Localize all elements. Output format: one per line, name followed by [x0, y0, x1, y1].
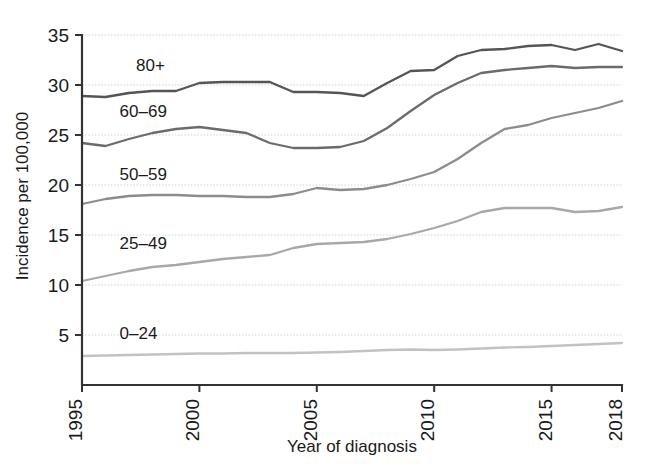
- series-group: [82, 44, 622, 356]
- y-tick-label-15: 15: [48, 225, 69, 246]
- y-axis-title: Incidence per 100,000: [13, 112, 32, 280]
- series-labels-group: 80+60–6950–5925–490–24: [120, 56, 167, 343]
- y-tick-label-30: 30: [48, 75, 69, 96]
- y-tick-label-35: 35: [48, 25, 69, 46]
- axis-lines: [82, 35, 622, 385]
- chart-container: 5101520253035199520002005201020152018 80…: [0, 0, 650, 476]
- y-tick-label-10: 10: [48, 275, 69, 296]
- incidence-line-chart: 5101520253035199520002005201020152018 80…: [0, 0, 650, 476]
- gridlines: [82, 35, 622, 335]
- y-tick-label-25: 25: [48, 125, 69, 146]
- series-label-0-24: 0–24: [120, 324, 158, 343]
- series-label-50-59: 50–59: [120, 165, 167, 184]
- y-tick-label-5: 5: [58, 325, 69, 346]
- series-line-0-24: [82, 343, 622, 356]
- x-tick-label-2005: 2005: [300, 399, 321, 441]
- x-tick-label-2000: 2000: [182, 399, 203, 441]
- series-label-80+: 80+: [136, 56, 165, 75]
- x-tick-label-1995: 1995: [65, 399, 86, 441]
- y-tick-label-20: 20: [48, 175, 69, 196]
- x-tick-label-2018: 2018: [605, 399, 626, 441]
- x-axis-title: Year of diagnosis: [287, 437, 417, 456]
- x-tick-label-2010: 2010: [417, 399, 438, 441]
- x-tick-label-2015: 2015: [535, 399, 556, 441]
- series-label-25-49: 25–49: [120, 234, 167, 253]
- series-label-60-69: 60–69: [120, 102, 167, 121]
